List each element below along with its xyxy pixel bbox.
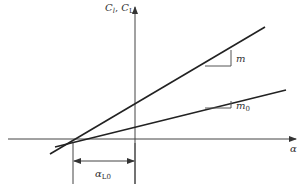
lift-slope-diagram: m m0 Cl, CL α αL0 [0,0,300,184]
zero-lift-angle-label: αL0 [95,168,111,181]
y-axis-label: Cl, CL [105,2,134,15]
slope-label-m: m [236,53,245,64]
x-axis-label: α [290,143,297,154]
lift-line-m [50,27,265,154]
slope-label-m0: m0 [236,100,250,113]
lift-line-m0 [55,90,286,147]
slope-triangle-m [205,50,231,66]
